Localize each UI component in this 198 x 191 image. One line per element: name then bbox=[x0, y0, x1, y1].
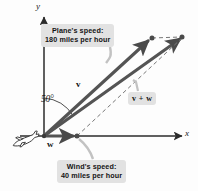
dashed-parallel-diagonal bbox=[77, 38, 182, 136]
callout-plane-speed-line2: 180 miles per hour bbox=[45, 35, 110, 44]
leader-line-vplusw bbox=[133, 80, 138, 91]
endpoint-dot-vplusw bbox=[180, 35, 185, 40]
y-axis-label: y bbox=[36, 1, 40, 11]
angle-label: 50° bbox=[41, 94, 54, 104]
endpoint-dot-v bbox=[150, 36, 155, 41]
endpoint-dot-w bbox=[75, 134, 80, 139]
origin-dot bbox=[42, 134, 46, 138]
dashed-parallel-top bbox=[152, 37, 181, 38]
callout-plane-speed: Plane's speed: 180 miles per hour bbox=[41, 24, 114, 47]
vector-v-label: v bbox=[76, 79, 81, 89]
callout-wind-speed-line2: 40 miles per hour bbox=[61, 171, 122, 180]
vector-addition-figure: y x 50° v w v + w Plane's speed: 180 mil… bbox=[0, 0, 198, 191]
vector-w-label: w bbox=[47, 139, 54, 149]
callout-wind-speed-line1: Wind's speed: bbox=[67, 162, 117, 171]
leader-line-plane-speed bbox=[106, 47, 111, 63]
callout-wind-speed: Wind's speed: 40 miles per hour bbox=[57, 160, 126, 183]
leader-line-wind-speed bbox=[79, 139, 93, 159]
vector-v-plus-w-label: v + w bbox=[128, 92, 156, 105]
x-axis-label: x bbox=[185, 128, 189, 138]
vector-v-plus-w bbox=[44, 39, 180, 136]
airplane-icon bbox=[11, 130, 41, 148]
callout-plane-speed-line1: Plane's speed: bbox=[52, 26, 103, 35]
vector-v bbox=[44, 41, 148, 136]
